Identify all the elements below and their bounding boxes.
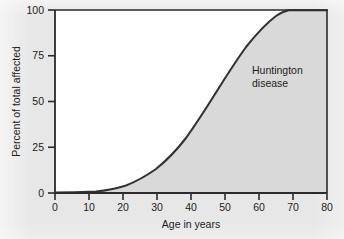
x-tick-label-20: 20 — [117, 201, 129, 213]
y-tick-label-100: 100 — [26, 4, 44, 16]
x-tick-marks — [55, 193, 327, 200]
x-tick-label-0: 0 — [52, 201, 58, 213]
x-tick-label-50: 50 — [219, 201, 231, 213]
x-tick-label-80: 80 — [321, 201, 333, 213]
y-tick-marks — [48, 10, 55, 193]
y-axis-title: Percent of total affected — [10, 46, 22, 157]
x-tick-label-30: 30 — [151, 201, 163, 213]
y-tick-label-50: 50 — [32, 95, 44, 107]
y-tick-label-75: 75 — [32, 49, 44, 61]
curve-annotation-line-2: disease — [252, 77, 288, 89]
x-tick-label-10: 10 — [83, 201, 95, 213]
y-tick-label-0: 0 — [38, 187, 44, 199]
x-tick-label-60: 60 — [253, 201, 265, 213]
y-tick-label-25: 25 — [32, 141, 44, 153]
x-axis-title: Age in years — [162, 218, 220, 230]
curve-annotation-line-1: Huntington — [252, 64, 303, 76]
huntington-disease-figure: 0 25 50 75 100 0 10 20 30 40 50 60 70 80… — [0, 0, 344, 239]
x-tick-label-40: 40 — [185, 201, 197, 213]
x-tick-label-70: 70 — [287, 201, 299, 213]
onset-curve-chart: 0 25 50 75 100 0 10 20 30 40 50 60 70 80… — [0, 0, 344, 239]
